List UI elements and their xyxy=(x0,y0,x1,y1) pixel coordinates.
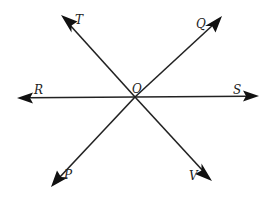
ray-OV xyxy=(135,97,204,172)
label-Q: Q xyxy=(196,17,206,31)
ray-OS xyxy=(135,96,248,97)
label-P: P xyxy=(63,168,73,182)
ray-OR xyxy=(28,97,135,98)
ray-OP xyxy=(59,97,135,178)
label-V: V xyxy=(189,169,199,183)
line-PQ xyxy=(51,16,222,187)
label-S: S xyxy=(233,83,241,97)
ray-OT xyxy=(69,24,135,97)
label-R: R xyxy=(33,83,43,97)
label-T: T xyxy=(75,13,84,27)
ray-OQ xyxy=(135,24,214,97)
label-O: O xyxy=(132,82,142,96)
intersecting-lines-diagram: T Q R S O P V xyxy=(0,0,273,198)
